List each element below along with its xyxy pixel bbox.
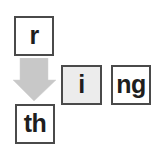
- down-arrow-icon: [12, 58, 57, 102]
- source-letter-tile: r: [14, 16, 54, 56]
- word-tile-ending: ng: [111, 65, 151, 105]
- source-letter-label: r: [29, 23, 38, 48]
- replacement-letter-tile: th: [15, 104, 55, 144]
- word-tile-ending-label: ng: [116, 72, 146, 97]
- word-tile-vowel-label: i: [78, 72, 84, 97]
- word-tile-vowel: i: [61, 65, 102, 105]
- replacement-letter-label: th: [24, 111, 47, 136]
